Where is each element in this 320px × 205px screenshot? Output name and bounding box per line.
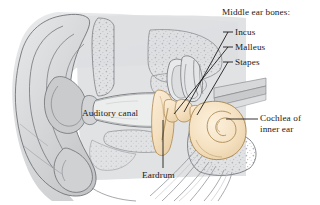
label-auditory-canal: Auditory canal	[82, 108, 138, 119]
semicircular-canals	[167, 56, 203, 102]
label-malleus: Malleus	[235, 42, 265, 53]
label-middle-ear-bones-heading: Middle ear bones:	[222, 7, 290, 18]
cochlea	[189, 101, 246, 159]
label-cochlea-line1: Cochlea of	[260, 113, 301, 124]
label-eardrum: Eardrum	[142, 170, 175, 181]
ear-anatomy-figure: Middle ear bones: Incus Malleus Stapes A…	[0, 0, 320, 205]
label-cochlea-line2: inner ear	[260, 124, 293, 135]
label-stapes: Stapes	[235, 57, 260, 68]
label-incus: Incus	[235, 27, 255, 38]
